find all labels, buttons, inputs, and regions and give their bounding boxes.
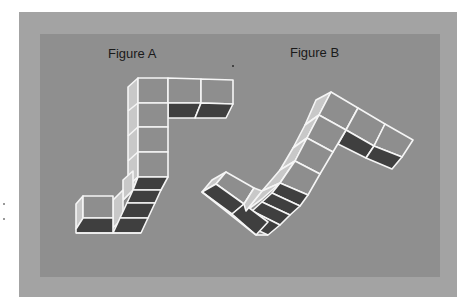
figure-a bbox=[76, 78, 233, 233]
figure-b bbox=[202, 92, 413, 235]
figures-drawing bbox=[0, 0, 470, 308]
